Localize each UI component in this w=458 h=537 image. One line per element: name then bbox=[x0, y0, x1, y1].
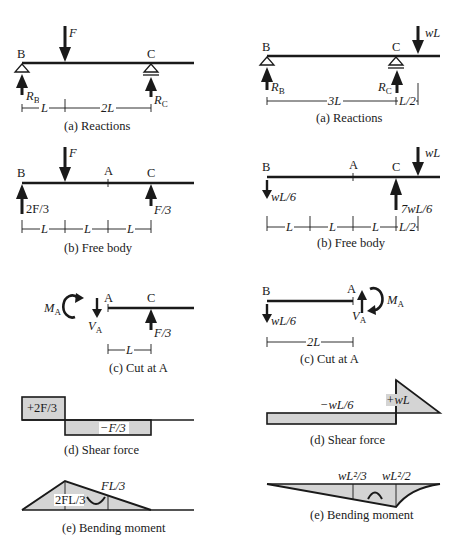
caption: (c) Cut at A bbox=[109, 361, 168, 375]
point-c-label: C bbox=[147, 291, 155, 305]
caption: (d) Shear force bbox=[64, 443, 139, 457]
dim-label: L bbox=[371, 220, 379, 234]
point-c-label: C bbox=[392, 160, 400, 174]
reaction-c-label: 7wL/6 bbox=[401, 202, 433, 216]
caption: (a) Reactions bbox=[316, 111, 382, 125]
dimension-line: 2L bbox=[267, 335, 353, 349]
roller-support-icon bbox=[144, 64, 158, 72]
left-reactions-panel: B C F RB RC L bbox=[15, 26, 194, 133]
dim-label: L bbox=[83, 222, 91, 236]
caption: (a) Reactions bbox=[64, 119, 130, 133]
dimension-line: 3L L/2 bbox=[267, 83, 418, 108]
dim-label: L bbox=[285, 220, 293, 234]
caption: (d) Shear force bbox=[310, 433, 385, 447]
right-moment-diagram: wL²/3 wL²/2 (e) Bending moment bbox=[267, 469, 440, 522]
moment-a-label: FL/3 bbox=[100, 479, 125, 493]
reaction-b-label: RB bbox=[25, 89, 40, 105]
dimension-line: L bbox=[108, 343, 151, 357]
moment-a-label: wL²/3 bbox=[338, 469, 367, 483]
reaction-c-label: F/3 bbox=[153, 326, 171, 340]
shear-label: VA bbox=[88, 319, 103, 335]
reaction-c-label: RC bbox=[377, 80, 392, 96]
beam-analysis-figure: B C F RB RC L bbox=[0, 0, 458, 537]
reaction-b-label: wL/6 bbox=[271, 190, 297, 204]
dim-label: L bbox=[328, 220, 336, 234]
moment-arrow-icon bbox=[367, 288, 382, 315]
peak-moment-label: 2FL/3 bbox=[55, 493, 86, 507]
down-arrow-icon bbox=[412, 26, 424, 54]
dim-label: L bbox=[40, 101, 48, 115]
point-b-label: B bbox=[17, 166, 25, 180]
pin-support-icon bbox=[15, 64, 29, 72]
down-arrow-icon bbox=[92, 298, 102, 318]
point-a-label: A bbox=[104, 291, 113, 305]
reaction-b-label: RB bbox=[270, 80, 285, 96]
up-arrow-icon bbox=[391, 70, 403, 93]
caption: (e) Bending moment bbox=[62, 521, 166, 535]
dim-label: L/2 bbox=[398, 220, 416, 234]
point-c-label: C bbox=[392, 40, 400, 54]
point-b-label: B bbox=[262, 40, 270, 54]
caption: (b) Free body bbox=[317, 236, 386, 250]
caption: (c) Cut at A bbox=[300, 352, 359, 366]
down-arrow-icon bbox=[412, 147, 424, 176]
point-c-label: C bbox=[147, 166, 155, 180]
dim-label: 2L bbox=[307, 335, 320, 349]
left-moment-diagram: 2FL/3 FL/3 (e) Bending moment bbox=[22, 479, 194, 535]
reaction-c-label: F/3 bbox=[153, 203, 171, 217]
point-a-label: A bbox=[349, 158, 358, 172]
dimension-line: L 2L bbox=[22, 99, 151, 115]
pin-support-icon bbox=[260, 57, 274, 65]
roller-support-icon bbox=[389, 57, 403, 65]
reaction-c-label: RC bbox=[153, 93, 168, 109]
dim-label: L bbox=[126, 222, 134, 236]
negative-shear-label: −wL/6 bbox=[320, 398, 354, 412]
left-shear-diagram: +2F/3 −F/3 (d) Shear force bbox=[22, 397, 194, 457]
point-c-label: C bbox=[147, 47, 155, 61]
right-cut-panel: B A wL/6 VA MA 2L (c) Cut at A bbox=[262, 282, 404, 366]
dimension-line: L L L bbox=[22, 220, 151, 236]
caption: (b) Free body bbox=[64, 241, 133, 255]
moment-arrow-icon bbox=[63, 293, 84, 318]
dim-label: 3L bbox=[327, 94, 341, 108]
load-label: wL bbox=[425, 146, 440, 160]
negative-shear-region bbox=[267, 413, 396, 424]
left-free-body-panel: B A C F 2F/3 F/3 L L L bbox=[16, 146, 194, 255]
load-label: F bbox=[68, 146, 77, 160]
point-a-label: A bbox=[104, 164, 113, 178]
right-free-body-panel: B A C wL wL/6 7wL/6 L bbox=[262, 146, 440, 250]
dim-label: L bbox=[125, 343, 133, 357]
reaction-b-label: 2F/3 bbox=[26, 202, 49, 216]
positive-shear-label: +wL bbox=[386, 393, 410, 407]
point-b-label: B bbox=[262, 284, 270, 298]
left-cut-panel: A C MA VA F/3 L (c) Cut at A bbox=[43, 291, 194, 375]
positive-shear-label: +2F/3 bbox=[27, 401, 57, 415]
dim-label: L bbox=[40, 222, 48, 236]
negative-shear-label: −F/3 bbox=[100, 421, 126, 435]
dim-label: L/2 bbox=[398, 94, 416, 108]
reaction-b-label: wL/6 bbox=[271, 314, 297, 328]
caption: (e) Bending moment bbox=[310, 508, 414, 522]
right-shear-diagram: +wL −wL/6 (d) Shear force bbox=[267, 380, 440, 447]
load-label: wL bbox=[425, 26, 440, 40]
moment-label: MA bbox=[43, 301, 61, 317]
right-reactions-panel: B C wL RB RC 3L L/2 (a) React bbox=[260, 26, 440, 125]
point-b-label: B bbox=[262, 160, 270, 174]
load-label: F bbox=[68, 26, 77, 40]
dimension-line: L L L L/2 bbox=[267, 216, 418, 234]
dim-label: 2L bbox=[101, 101, 114, 115]
point-a-label: A bbox=[347, 282, 356, 296]
shear-label: VA bbox=[352, 309, 367, 325]
point-b-label: B bbox=[17, 47, 25, 61]
moment-c-label: wL²/2 bbox=[382, 469, 411, 483]
moment-label: MA bbox=[386, 293, 404, 309]
